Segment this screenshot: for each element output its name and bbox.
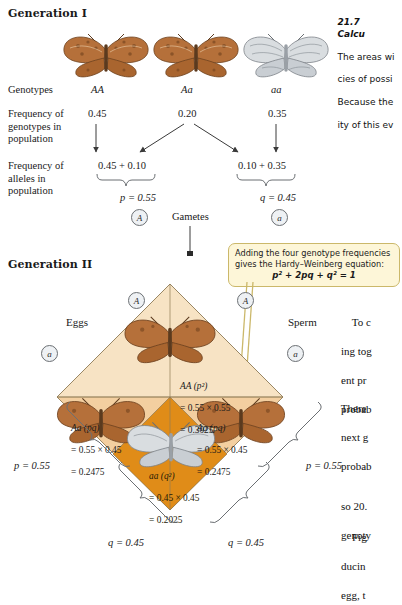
body-paragraph-4: Fig ducin egg, t (330, 515, 402, 605)
sperm-label: Sperm (288, 316, 317, 329)
edge-label-sperm-q: q = 0.45 (228, 537, 264, 550)
row-label-genotypes: Genotypes (8, 84, 53, 97)
callout-line-2: gives the Hardy–Weinberg equation: (235, 259, 384, 269)
body-p2-line-3: probab (341, 460, 372, 472)
genotype-AA: AA (91, 84, 104, 97)
genotype-Aa: Aa (181, 84, 193, 97)
allele-frequency-p: p = 0.55 (120, 192, 156, 205)
eggs-label: Eggs (66, 316, 88, 329)
body-p1-line-1: To c (341, 316, 371, 328)
edge-label-egg-p: p = 0.55 (14, 460, 50, 473)
body-p4-line-1: Fig (341, 531, 367, 543)
allele-sum-q: 0.10 + 0.35 (238, 160, 286, 173)
hardy-weinberg-equation: p² + 2pq + q² = 1 (235, 270, 393, 281)
figure-caption: 21.7 Calcu The areas wi cies of possi Be… (326, 6, 402, 143)
body-p2-line-1: There (341, 402, 367, 414)
moth-aa (238, 22, 334, 80)
body-paragraph-2: There next g probab (330, 386, 402, 488)
allele-circle-A-gen1: A (131, 209, 148, 226)
caption-line-2: cies of possi (337, 74, 392, 84)
body-p3-line-1: so 20. (341, 500, 367, 512)
caption-line-4: ity of this ev (337, 120, 393, 130)
allele-circle-A-eggs: A (128, 292, 145, 309)
allele-sum-p: 0.45 + 0.10 (98, 160, 146, 173)
caption-line-1: The areas wi (337, 52, 394, 62)
body-p1-line-2: ing tog (341, 345, 372, 357)
edge-label-egg-q: q = 0.45 (108, 537, 144, 550)
body-p4-line-2: ducin (341, 560, 365, 572)
callout-line-1: Adding the four genotype frequencies (235, 248, 390, 258)
body-p2-line-2: next g (341, 431, 368, 443)
generation-two-heading: Generation II (8, 259, 92, 272)
allele-circle-A-sperm: A (237, 292, 254, 309)
gametes-label: Gametes (172, 211, 209, 224)
allele-circle-a-gen1: a (271, 209, 288, 226)
allele-circle-a-eggs: a (41, 345, 58, 362)
genotype-aa: aa (271, 84, 282, 97)
allele-circle-a-sperm: a (287, 345, 304, 362)
caption-number: 21.7 (337, 17, 359, 27)
moth-Aa (148, 22, 244, 80)
hardy-weinberg-callout: Adding the four genotype frequencies giv… (228, 243, 400, 287)
cell-AA-genotype: AA (p²) (180, 381, 207, 391)
moth-AA (58, 22, 154, 80)
body-p4-line-3: egg, t (341, 589, 365, 601)
allele-frequency-q: q = 0.45 (260, 192, 296, 205)
body-p1-line-3: ent pr (341, 374, 366, 386)
generation-one-heading: Generation I (8, 8, 87, 21)
caption-line-3: Because the (337, 97, 393, 107)
caption-title: Calcu (337, 29, 365, 39)
allele-sum-braces (0, 172, 402, 194)
